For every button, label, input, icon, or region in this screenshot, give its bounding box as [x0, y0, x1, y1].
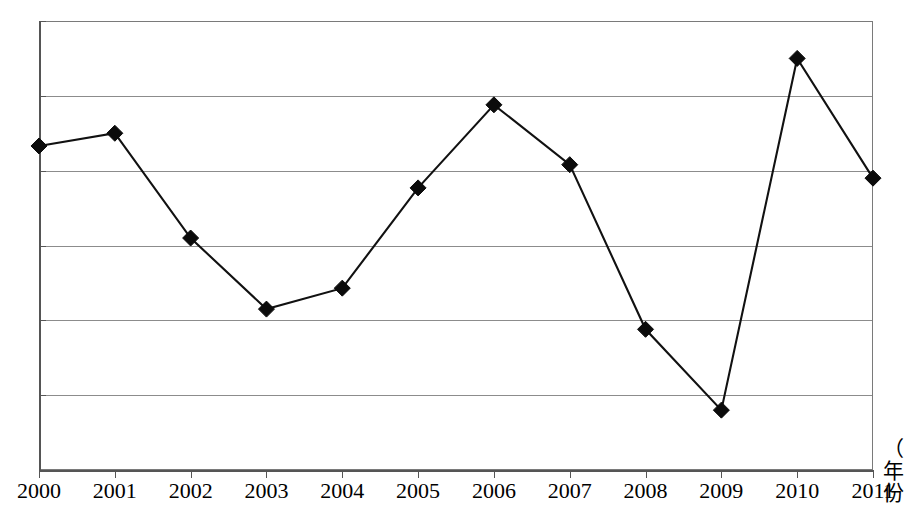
x-axis-tick — [191, 470, 192, 478]
y-axis-tick — [39, 395, 46, 396]
x-axis-tick — [39, 470, 40, 478]
plot-area — [39, 21, 873, 470]
x-axis-tick — [873, 470, 874, 478]
y-axis-tick — [39, 96, 46, 97]
x-axis-tick — [570, 470, 571, 478]
y-axis-tick — [39, 171, 46, 172]
gridline — [40, 246, 872, 247]
x-axis-tick-label: 2005 — [378, 478, 458, 504]
gridline — [40, 171, 872, 172]
gridline — [40, 320, 872, 321]
x-axis-tick — [266, 470, 267, 478]
x-axis-tick-label: 2002 — [151, 478, 231, 504]
x-axis-tick — [797, 470, 798, 478]
x-axis-tick — [115, 470, 116, 478]
x-axis-tick-label: 2003 — [226, 478, 306, 504]
x-axis-caption: （年份 — [880, 438, 907, 504]
x-axis-tick-label: 2010 — [757, 478, 837, 504]
x-axis-caption-char-1: （ — [883, 437, 904, 461]
y-axis-tick — [39, 320, 46, 321]
x-axis-tick — [418, 470, 419, 478]
x-axis-tick — [721, 470, 722, 478]
x-axis-tick-label: 2001 — [75, 478, 155, 504]
line-chart: 30405060708090 2000200120022003200420052… — [0, 0, 907, 509]
x-axis-line — [39, 470, 873, 472]
x-axis-caption-char-2: 年 — [883, 459, 904, 483]
x-axis-caption-char-3: 份 — [883, 481, 904, 505]
x-axis-tick-label: 2007 — [530, 478, 610, 504]
gridline — [40, 395, 872, 396]
x-axis-tick-label: 2006 — [454, 478, 534, 504]
y-axis-tick — [39, 21, 46, 22]
gridline — [40, 96, 872, 97]
x-axis-tick — [494, 470, 495, 478]
x-axis-tick-label: 2008 — [606, 478, 686, 504]
x-axis-tick — [646, 470, 647, 478]
x-axis-tick-label: 2009 — [681, 478, 761, 504]
x-axis-tick — [342, 470, 343, 478]
x-axis-tick-label: 2004 — [302, 478, 382, 504]
y-axis-tick — [39, 246, 46, 247]
x-axis-tick-label: 2000 — [0, 478, 79, 504]
